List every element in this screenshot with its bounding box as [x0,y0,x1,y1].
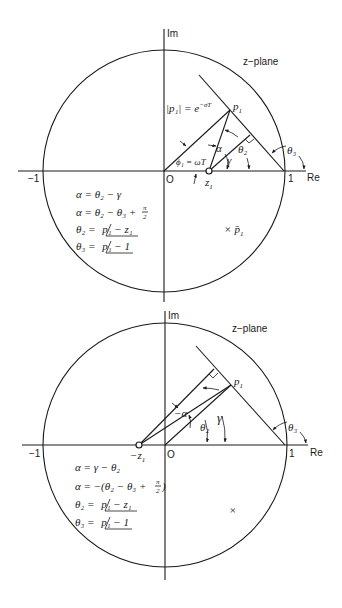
pole-label: p1 [233,375,243,390]
plane-label: z−plane [232,323,268,334]
alpha-label: −α [174,407,187,419]
conj-pole-marker: × [229,504,236,516]
tick-one: 1 [289,448,295,459]
zero-marker [136,442,142,448]
equation-2-frac-den: 2 [156,487,160,495]
equation-4: θ₃ = p₁ − 1 [76,240,130,252]
alpha-arc [225,130,238,137]
equation-2-frac-den: 2 [143,213,147,221]
imag-axis-label: Im [168,310,179,321]
tick-one: 1 [288,173,294,184]
equation-2-frac-num: π [156,478,160,486]
theta2-label: θ₂ [238,143,247,155]
origin-label: O [167,449,175,460]
theta3-arc-right [299,156,304,169]
theta3-label: θ₃ [288,421,297,433]
theta2-label: θ₂ [200,421,209,433]
tick-neg-one: −1 [29,448,41,459]
bottom-panel: Im Re z−plane −1 O 1 p1 −z1 −α θ₂ γ θ₃ × [22,310,323,580]
equation-4: θ₃ = p₁ − 1 [75,516,129,528]
alpha-label: α [216,142,222,154]
origin-label: O [166,174,174,185]
theta2-arc [247,158,249,169]
zero-label: z1 [204,176,213,191]
conj-pole-label: ×p̄1 [224,223,243,238]
real-axis-label: Re [307,172,320,183]
equation-2: α = −(θ₂ − θ₃ + [75,480,146,493]
p1-minus-1-line [199,75,284,171]
phase-annotation: ϕ₁ = ωT [176,157,207,167]
magnitude-annotation: |p₁| = e−σT [166,101,212,114]
gamma-label: γ [227,154,232,166]
theta3-label: θ₃ [287,144,296,156]
equation-2-close: ) [161,480,166,493]
equation-1: α = γ − θ₂ [75,461,120,473]
equations-top: α = θ₂ − γ α = θ₂ − θ₃ + π 2 θ₂ = p₁ − z… [76,188,148,253]
phi-arrow-lower [194,174,196,184]
plane-label: z−plane [243,56,279,67]
equation-2-frac-num: π [143,204,147,212]
equations-bottom: α = γ − θ₂ α = −(θ₂ − θ₃ + π 2 ) θ₂ = p₁… [75,461,166,529]
equation-1: α = θ₂ − γ [76,188,122,200]
pole-label: p1 [232,100,242,115]
right-angle-marker [209,373,218,378]
top-panel: Im Re z−plane −1 O 1 p1 z1 |p₁| = e−σT ϕ… [18,28,320,302]
gamma-arc-upper [203,388,219,390]
zero-marker [206,168,212,174]
gamma-arc-lower [222,416,225,442]
tick-neg-one: −1 [28,173,40,184]
real-axis-label: Re [310,447,323,458]
zplane-figure: Im Re z−plane −1 O 1 p1 z1 |p₁| = e−σT ϕ… [0,0,342,608]
imag-axis-label: Im [167,28,178,39]
zero-label: −z1 [130,449,145,464]
phi-arrow [180,141,186,146]
equation-3: θ₂ = p₁ − z₁ [76,223,133,235]
theta3-arc-right [300,432,306,443]
equation-2: α = θ₂ − θ₃ + [76,206,136,218]
alpha-arc [189,415,191,428]
gamma-label: γ [217,410,223,425]
alpha-arrow [208,145,216,146]
equation-3: θ₂ = p₁ − z₁ [75,498,132,510]
p1-minus-1-line [196,346,285,445]
